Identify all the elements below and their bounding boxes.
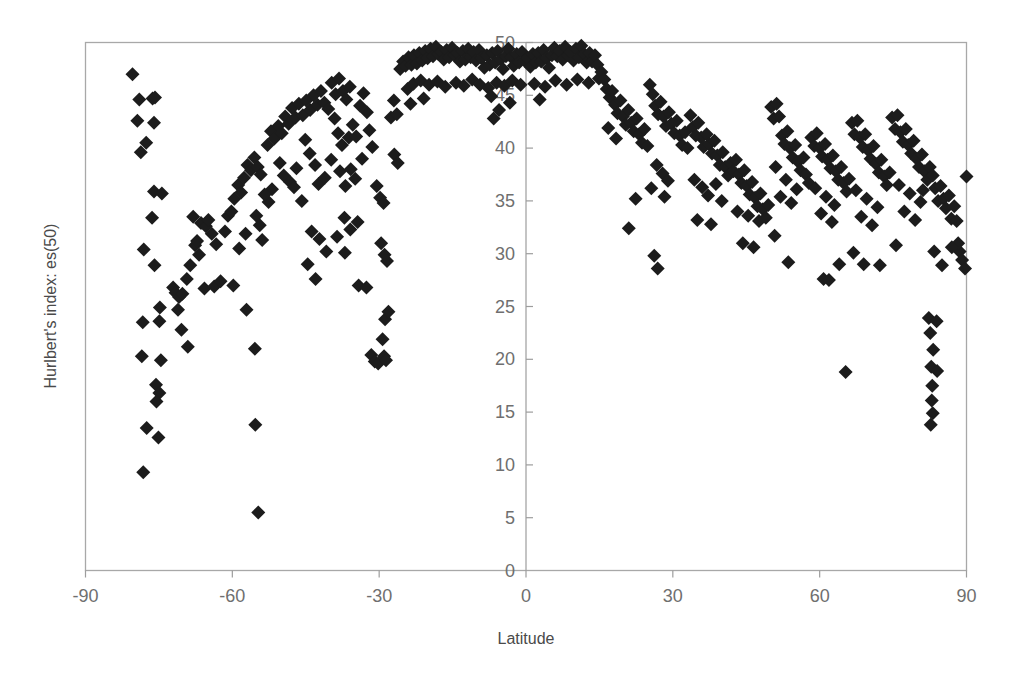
data-point-marker <box>903 187 917 201</box>
data-point-marker <box>925 393 939 407</box>
data-point-marker <box>651 261 665 275</box>
y-tick-label: 40 <box>495 138 515 158</box>
data-point-marker <box>913 195 927 209</box>
data-point-marker <box>629 192 643 206</box>
y-tick-label: 5 <box>505 508 515 528</box>
data-point-marker <box>218 225 232 239</box>
data-point-marker <box>768 229 782 243</box>
data-point-marker <box>132 93 146 107</box>
data-point-marker <box>338 246 352 260</box>
data-point-marker <box>622 221 636 235</box>
data-point-marker <box>309 272 323 286</box>
data-point-marker <box>251 505 265 519</box>
data-point-marker <box>136 465 150 479</box>
data-point-marker <box>925 379 939 393</box>
x-tick-label: 90 <box>956 586 976 606</box>
data-point-marker <box>130 114 144 128</box>
data-point-marker <box>873 258 887 272</box>
data-point-marker <box>295 194 309 208</box>
data-point-marker <box>145 211 159 225</box>
data-point-marker <box>370 179 384 193</box>
data-point-marker <box>897 204 911 218</box>
data-point-marker <box>690 213 704 227</box>
data-point-marker <box>248 342 262 356</box>
data-point-marker <box>658 190 672 204</box>
x-tick-label: 0 <box>521 586 531 606</box>
data-point-marker <box>362 123 376 137</box>
data-point-marker <box>365 140 379 154</box>
data-point-marker <box>935 258 949 272</box>
data-point-marker <box>374 236 388 250</box>
data-point-marker <box>647 249 661 263</box>
data-point-marker <box>601 121 615 135</box>
x-axis-title: Latitude <box>498 630 555 647</box>
data-point-marker <box>889 238 903 252</box>
data-point-marker <box>533 93 547 107</box>
y-axis-title: Hurlbert's index: es(50) <box>42 224 59 389</box>
data-point-marker <box>308 158 322 172</box>
data-point-marker <box>333 164 347 178</box>
data-point-marker <box>417 91 431 105</box>
data-point-marker <box>709 177 723 191</box>
data-point-marker <box>153 301 167 315</box>
x-tick-label: -30 <box>366 586 392 606</box>
data-point-marker <box>779 173 793 187</box>
scatter-plot-figure: -90-60-300306090 05101520253035404550 La… <box>0 0 1017 679</box>
data-point-marker <box>174 323 188 337</box>
data-point-marker <box>147 116 161 130</box>
data-point-marker <box>387 94 401 108</box>
data-point-marker <box>376 332 390 346</box>
data-point-marker <box>403 97 417 111</box>
data-point-marker <box>330 230 344 244</box>
data-point-marker <box>870 200 884 214</box>
data-point-marker <box>924 418 938 432</box>
data-point-marker <box>715 194 729 208</box>
y-tick-label: 0 <box>505 561 515 581</box>
x-axis-ticks <box>86 571 967 578</box>
data-point-marker <box>289 161 303 175</box>
data-point-marker <box>301 257 315 271</box>
data-point-marker <box>324 153 338 167</box>
value-axis <box>526 43 533 571</box>
data-point-marker <box>846 246 860 260</box>
y-tick-label: 30 <box>495 244 515 264</box>
data-point-marker <box>239 227 253 241</box>
x-tick-label: 30 <box>663 586 683 606</box>
plot-canvas: -90-60-300306090 05101520253035404550 La… <box>0 0 1017 679</box>
data-point-marker <box>790 182 804 196</box>
data-point-marker <box>923 326 937 340</box>
data-point-marker <box>152 314 166 328</box>
y-tick-label: 25 <box>495 297 515 317</box>
data-point-marker <box>319 245 333 259</box>
data-point-marker <box>908 213 922 227</box>
data-point-marker <box>154 353 168 367</box>
data-point-marker <box>240 303 254 317</box>
data-point-marker <box>337 211 351 225</box>
data-point-marker <box>355 152 369 166</box>
data-point-marker <box>644 181 658 195</box>
y-tick-label: 15 <box>495 402 515 422</box>
data-point-marker <box>926 343 940 357</box>
data-point-marker <box>298 133 312 147</box>
data-point-marker <box>148 258 162 272</box>
data-point-marker <box>135 349 149 363</box>
data-point-marker <box>181 340 195 354</box>
data-point-marker <box>704 217 718 231</box>
data-point-marker <box>927 245 941 259</box>
data-point-marker <box>180 272 194 286</box>
data-point-marker <box>338 179 352 193</box>
data-point-marker <box>769 160 783 174</box>
scatter-markers <box>125 39 973 520</box>
data-point-marker <box>865 218 879 232</box>
x-tick-label: -90 <box>72 586 98 606</box>
data-point-marker <box>774 190 788 204</box>
data-point-marker <box>892 178 906 192</box>
data-point-marker <box>137 242 151 256</box>
data-point-marker <box>183 258 197 272</box>
y-tick-label: 10 <box>495 455 515 475</box>
data-point-marker <box>303 146 317 160</box>
y-tick-label: 20 <box>495 349 515 369</box>
data-point-marker <box>171 303 185 317</box>
data-point-marker <box>255 233 269 247</box>
data-point-marker <box>926 406 940 420</box>
